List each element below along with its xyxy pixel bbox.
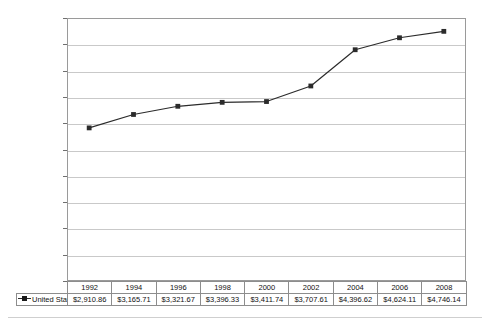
table-cell-value: $4,746.14 bbox=[422, 294, 466, 306]
table-cell-value: $3,707.61 bbox=[289, 294, 333, 306]
data-point-2008 bbox=[441, 29, 446, 34]
data-point-2004 bbox=[353, 47, 358, 52]
page-divider-rule bbox=[8, 317, 482, 318]
data-point-1996 bbox=[175, 104, 180, 109]
table-row-united-states: United States $2,910.86 $3,165.71 $3,321… bbox=[17, 294, 467, 306]
data-point-1998 bbox=[220, 100, 225, 105]
data-point-2002 bbox=[308, 84, 313, 89]
data-point-2006 bbox=[397, 35, 402, 40]
legend-label: United States bbox=[32, 295, 68, 304]
table-header-year: 2008 bbox=[422, 282, 466, 294]
table-cell-value: $2,910.86 bbox=[68, 294, 112, 306]
legend-entry-united-states: United States bbox=[17, 294, 68, 306]
table-row-years: 1992 1994 1996 1998 2000 2002 2004 2006 … bbox=[17, 282, 467, 294]
table-header-year: 2006 bbox=[378, 282, 422, 294]
table-header-year: 1998 bbox=[200, 282, 244, 294]
table-header-year: 2000 bbox=[245, 282, 289, 294]
series-united-states bbox=[0, 0, 489, 322]
data-point-1994 bbox=[131, 112, 136, 117]
table-cell-value: $3,396.33 bbox=[200, 294, 244, 306]
table-header-year: 1992 bbox=[68, 282, 112, 294]
line-chart-figure: $5,000 $4,500 $4,000 $3,500 $3,000 $2,50… bbox=[0, 0, 489, 322]
table-header-year: 1994 bbox=[112, 282, 156, 294]
data-table: 1992 1994 1996 1998 2000 2002 2004 2006 … bbox=[16, 281, 467, 306]
data-point-1992 bbox=[87, 125, 92, 130]
data-point-2000 bbox=[264, 99, 269, 104]
table-cell-value: $3,321.67 bbox=[156, 294, 200, 306]
table-cell-value: $4,396.62 bbox=[333, 294, 377, 306]
table-header-year: 2004 bbox=[333, 282, 377, 294]
table-header-year: 1996 bbox=[156, 282, 200, 294]
table-cell-value: $3,411.74 bbox=[245, 294, 289, 306]
table-cell-value: $3,165.71 bbox=[112, 294, 156, 306]
table-corner-blank bbox=[17, 282, 68, 294]
table-header-year: 2002 bbox=[289, 282, 333, 294]
table-cell-value: $4,624.11 bbox=[378, 294, 422, 306]
series-markers bbox=[87, 29, 446, 130]
series-line bbox=[89, 31, 444, 128]
series-marker-icon bbox=[18, 295, 31, 304]
